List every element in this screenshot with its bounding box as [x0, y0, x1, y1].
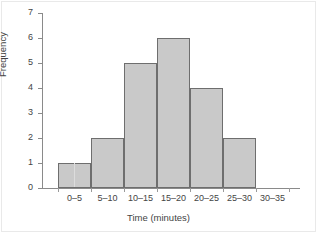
bar-20-25 [190, 88, 223, 188]
x-tick-label-10-15: 10–15 [128, 193, 153, 204]
histogram-figure: Frequency 0 1 2 3 4 5 6 [0, 0, 317, 233]
x-tick-label-15-20: 15–20 [161, 193, 186, 204]
bar-25-30 [223, 138, 256, 188]
x-tick-label-5-10: 5–10 [97, 193, 117, 204]
x-tick-label-0-5: 0–5 [67, 193, 82, 204]
y-tick-label-3: 3 [28, 107, 33, 118]
x-axis-line [42, 188, 300, 189]
x-tick-2 [124, 188, 125, 192]
x-tick-label-20-25: 20–25 [194, 193, 219, 204]
bar-10-15 [124, 63, 157, 188]
bar-scan-seam [74, 163, 75, 187]
y-tick-label-2: 2 [28, 132, 33, 143]
x-tick-3 [157, 188, 158, 192]
x-tick-label-30-35: 30–35 [260, 193, 285, 204]
y-tick-5: 5 [38, 63, 43, 64]
y-tick-3: 3 [38, 113, 43, 114]
x-tick-0 [58, 188, 59, 192]
y-tick-label-5: 5 [28, 57, 33, 68]
y-tick-label-6: 6 [28, 32, 33, 43]
y-tick-0: 0 [38, 188, 43, 189]
x-tick-6 [256, 188, 257, 192]
bar-5-10 [91, 138, 124, 188]
x-tick-7 [289, 188, 290, 192]
y-tick-4: 4 [38, 88, 43, 89]
y-tick-label-1: 1 [28, 157, 33, 168]
bar-15-20 [157, 38, 190, 188]
y-tick-6: 6 [38, 38, 43, 39]
y-tick-label-4: 4 [28, 82, 33, 93]
y-axis-title: Frequency [0, 32, 9, 77]
plot-area: 0 1 2 3 4 5 6 7 [42, 13, 300, 188]
y-axis-line [42, 13, 43, 188]
y-tick-7: 7 [38, 13, 43, 14]
y-tick-1: 1 [38, 163, 43, 164]
y-tick-label-7: 7 [28, 7, 33, 18]
y-tick-2: 2 [38, 138, 43, 139]
x-tick-1 [91, 188, 92, 192]
y-tick-label-0: 0 [28, 182, 33, 193]
x-axis-title: Time (minutes) [0, 212, 317, 224]
x-tick-label-25-30: 25–30 [227, 193, 252, 204]
x-tick-5 [223, 188, 224, 192]
x-tick-4 [190, 188, 191, 192]
